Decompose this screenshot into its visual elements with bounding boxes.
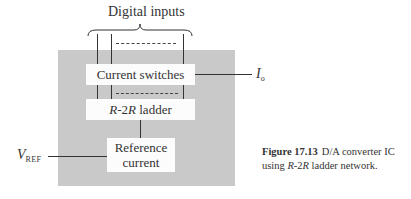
- current-switches-block: Current switches: [86, 64, 195, 85]
- digital-input-dashes: [116, 43, 176, 44]
- vref-line: [48, 156, 107, 157]
- figure-caption: Figure 17.13D/A converter IC using R-2R …: [262, 145, 411, 173]
- switch-ladder-line-1: [97, 85, 98, 99]
- digital-inputs-label: Digital inputs: [108, 4, 185, 20]
- output-line: [195, 74, 252, 75]
- figure-number: Figure 17.13: [262, 146, 318, 157]
- switch-ladder-line-n: [183, 85, 184, 99]
- output-current-label: Io: [256, 66, 265, 83]
- r2r-ladder-block: R-2R ladder: [86, 99, 195, 120]
- ladder-reference-line: [140, 120, 141, 138]
- reference-label-line1: Reference: [115, 140, 168, 155]
- reference-label-line2: current: [123, 155, 160, 170]
- switch-ladder-dashes: [116, 93, 178, 94]
- switch-ladder-line-2: [111, 85, 112, 99]
- caption-text-2: ladder network.: [309, 160, 378, 171]
- current-switches-label: Current switches: [97, 67, 185, 82]
- curly-brace-icon: [86, 22, 194, 38]
- digital-input-line-1: [97, 34, 98, 64]
- digital-input-line-n: [183, 34, 184, 64]
- digital-input-line-2: [111, 34, 112, 64]
- reference-current-block: Reference current: [107, 138, 175, 172]
- vref-label: VREF: [17, 147, 41, 164]
- r2r-ladder-label: R-2R ladder: [109, 102, 171, 117]
